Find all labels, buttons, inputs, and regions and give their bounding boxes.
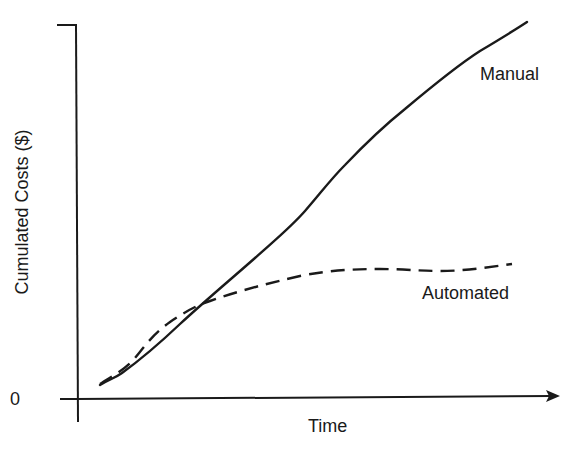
x-axis-label: Time (308, 416, 347, 437)
x-axis (76, 396, 552, 399)
y-tick-zero: 0 (10, 389, 20, 410)
series-manual-line (100, 22, 527, 385)
y-axis-label: Cumulated Costs ($) (12, 129, 33, 294)
series-automated-line (100, 264, 512, 384)
series-label-manual: Manual (480, 64, 539, 85)
y-axis (76, 25, 78, 422)
series-label-automated: Automated (422, 283, 509, 304)
